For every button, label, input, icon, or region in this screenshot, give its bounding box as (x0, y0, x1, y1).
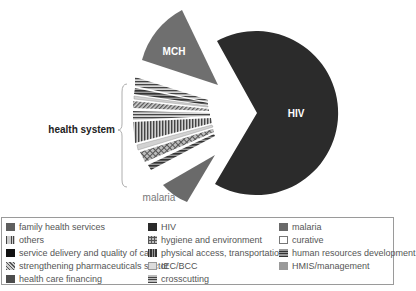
legend-label: crosscutting (161, 274, 209, 284)
legend-item: HMIS/management (279, 259, 416, 272)
label-health-system: health system (48, 124, 115, 135)
legend-label: hygiene and environment (161, 235, 262, 245)
legend-item: malaria (279, 220, 416, 233)
legend-item: IEC/BCC (148, 259, 284, 272)
swatch-horizontal-stripes-icon (148, 275, 157, 283)
swatch-family-health-icon (6, 223, 15, 231)
legend: family health services others service de… (1, 217, 394, 285)
swatch-diagonal-hatch-icon (6, 262, 15, 270)
legend-label: HMIS/management (292, 261, 370, 271)
legend-label: malaria (292, 222, 322, 232)
swatch-grid-icon (148, 236, 157, 244)
legend-label: physical access, transportation (161, 248, 284, 258)
legend-label: health care financing (19, 274, 102, 284)
legend-item: curative (279, 233, 416, 246)
legend-item: human resources development (279, 246, 416, 259)
swatch-dark-grey-icon (6, 275, 15, 283)
swatch-malaria-icon (279, 223, 288, 231)
legend-column-2: HIV hygiene and environment physical acc… (148, 220, 284, 285)
swatch-light-icon (148, 262, 157, 270)
legend-item: HIV (148, 220, 284, 233)
legend-item: hygiene and environment (148, 233, 284, 246)
swatch-mid-grey-icon (279, 262, 288, 270)
label-malaria: malaria (143, 192, 176, 203)
legend-label: family health services (19, 222, 105, 232)
swatch-black-icon (6, 249, 15, 257)
pie-chart: HIV MCH malaria health system (0, 0, 402, 215)
legend-label: service delivery and quality of care (19, 248, 157, 258)
slice-hiv (215, 31, 338, 195)
legend-label: curative (292, 235, 324, 245)
legend-item: family health services (6, 220, 169, 233)
legend-item: service delivery and quality of care (6, 246, 169, 259)
label-hiv: HIV (288, 108, 305, 119)
legend-label: human resources development (292, 248, 416, 258)
legend-item: physical access, transportation (148, 246, 284, 259)
health-system-brace (118, 84, 127, 187)
swatch-vertical-stripes-icon (6, 236, 15, 244)
legend-item: others (6, 233, 169, 246)
legend-label: HIV (161, 222, 176, 232)
legend-item: health care financing (6, 272, 169, 285)
health-system-slices (133, 77, 215, 170)
label-mch: MCH (163, 46, 186, 57)
swatch-vertical-stripes-icon (148, 249, 157, 257)
legend-item: strengthening pharmaceuticals sector (6, 259, 169, 272)
legend-column-1: family health services others service de… (6, 220, 169, 285)
swatch-white-icon (279, 236, 288, 244)
legend-column-3: malaria curative human resources develop… (279, 220, 416, 272)
swatch-horizontal-stripes-icon (279, 249, 288, 257)
legend-label: others (19, 235, 44, 245)
legend-item: crosscutting (148, 272, 284, 285)
swatch-hiv-icon (148, 223, 157, 231)
legend-label: IEC/BCC (161, 261, 198, 271)
legend-label: strengthening pharmaceuticals sector (19, 261, 169, 271)
